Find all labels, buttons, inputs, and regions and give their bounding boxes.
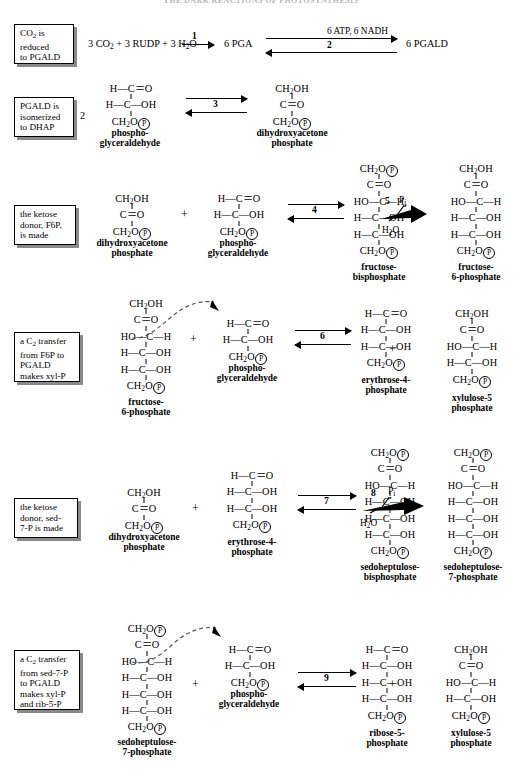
note-line: makes xyl-P [20, 689, 74, 700]
caption-xu5p-row4: xylulose-5 phosphate [426, 393, 518, 414]
phosphate-icon: P [153, 382, 165, 394]
arrow-step-1 [182, 44, 214, 45]
caption-line: bisphosphate [333, 272, 425, 282]
mol-row: C＝O [347, 463, 433, 474]
caption-pgald-row6: phospho- glyceraldehyde [201, 689, 297, 710]
caption-line: glyceraldehyde [82, 138, 178, 148]
note-line: from sed-7-P [20, 668, 74, 679]
note-line: donor, F6P, [20, 220, 70, 231]
mol-row: CH2OP [92, 226, 172, 237]
mol-row: CH2OP [104, 520, 184, 531]
mol-row: H—C—OH [104, 364, 188, 375]
arrow-number-9: 9 [324, 673, 329, 683]
mol-row: CH2OP [347, 545, 433, 556]
molecule-e4p-row5: H—C＝O H—C—OH H—C—OH CH2OP [208, 470, 296, 531]
molecule-dhap-row2: CH2OH C＝O CH2OP [252, 83, 332, 127]
arrow-number-3: 3 [213, 99, 218, 109]
mol-row: CH2OP [434, 245, 518, 256]
caption-line: phosphate [425, 738, 517, 748]
phosphate-icon: P [259, 521, 271, 533]
caption-line: sedoheptulose- [94, 737, 200, 747]
note-line: PGALD is [20, 101, 68, 112]
note-line: the ketose [20, 502, 72, 513]
molecule-f6p-row3: CH2OH C＝O HO—C—H H—C—OH H—C—OH CH2OP [434, 163, 518, 256]
arrow-step-3-reverse [186, 112, 247, 113]
step2-cofactors: 6 ATP, 6 NADH [327, 26, 388, 36]
row2-coefficient: 2 [80, 110, 85, 122]
note-line: a C2 transfer [20, 654, 74, 668]
caption-e4p-row5: erythrose-4- phosphate [204, 537, 300, 558]
caption-line: fructose- [102, 397, 190, 407]
mol-row: CH2OP [336, 163, 422, 174]
arrow-number-2: 2 [327, 40, 332, 50]
phosphate-icon: P [154, 723, 166, 735]
mol-row: HO—C—H [434, 196, 518, 207]
note-line: PGALD [20, 360, 74, 371]
note-line: makes xyl-P [20, 371, 74, 382]
mol-row: H—C＝O [342, 308, 430, 319]
mol-row: CH2OP [430, 545, 516, 556]
step5-output-water: H2O [382, 225, 399, 238]
note-line: isomerized [20, 112, 68, 123]
mol-row: H—C—OH [207, 660, 293, 671]
molecule-pgald-row3: H—C＝O H—C—OH CH2OP [196, 193, 282, 237]
caption-line: glyceraldehyde [199, 373, 295, 383]
mol-row: C＝O [429, 324, 515, 335]
caption-xu5p-row6: xylulose-5 phosphate [425, 728, 517, 749]
mol-row: C＝O [252, 99, 332, 110]
mol-row: H—C—OH [430, 513, 516, 524]
arrow-number-7: 7 [324, 496, 329, 506]
caption-s7p-row5: sedoheptulose- 7-phosphate [420, 562, 522, 583]
mol-row: H—C—OH [428, 693, 514, 704]
caption-line: phospho- [190, 238, 286, 248]
caption-dhap-row5: dihydroxyacetone phosphate [92, 532, 196, 553]
plus-sign-row6-left: + [192, 678, 199, 690]
caption-line: phosphate [240, 138, 344, 148]
plus-sign-row3: + [181, 208, 188, 220]
note-line: a C2 transfer [20, 336, 74, 350]
mol-row: H—C—OH [104, 347, 188, 358]
mol-row: CH2OP [342, 357, 430, 368]
note-line: donor, sed- [20, 513, 72, 524]
note-line: to PGALD [20, 678, 74, 689]
arrow-number-6: 6 [320, 331, 325, 341]
caption-fbp: fructose- bisphosphate [333, 262, 425, 283]
phosphate-icon: P [480, 547, 492, 559]
phosphate-icon: P [479, 376, 491, 388]
mol-row: CH2OH [429, 308, 515, 319]
mol-row: CH2OP [336, 245, 422, 256]
caption-line: 7-phosphate [420, 572, 522, 582]
mol-row: H—C—OH [343, 693, 431, 704]
molecule-e4p-row4: H—C＝O H—C—OH H—C—OH CH2OP [342, 308, 430, 369]
mol-row: CH2OP [207, 677, 293, 688]
note-line: is made [20, 230, 70, 241]
caption-line: phospho- [201, 689, 297, 699]
mol-row: CH2OP [428, 710, 514, 721]
caption-line: ribose-5- [340, 728, 434, 738]
caption-f6p-row4: fructose- 6-phosphate [102, 397, 190, 418]
page-title: THE DARK REACTIONS OF PHOTOSYNTHESIS [0, 0, 522, 4]
molecule-xu5p-row6: CH2OH C＝O HO—C—H H—C—OH CH2OP [428, 644, 514, 721]
mol-row: CH2OP [88, 116, 174, 127]
diagram-canvas: THE DARK REACTIONS OF PHOTOSYNTHESIS CO2… [0, 0, 522, 777]
note-box-2: PGALD is isomerized to DHAP [14, 97, 74, 137]
mol-row: H—C＝O [343, 644, 431, 655]
note-line: to PGALD [20, 52, 68, 63]
note-line: and rib-5-P [20, 699, 74, 710]
caption-line: phospho- [199, 363, 295, 373]
mol-row: H—C＝O [208, 470, 296, 481]
mol-row: CH2OP [430, 447, 516, 458]
caption-line: phosphate [80, 248, 184, 258]
caption-r5p: ribose-5- phosphate [340, 728, 434, 749]
caption-line: fructose- [432, 262, 520, 272]
plus-sign-row4-right: + [389, 343, 396, 355]
caption-pgald-row4: phospho- glyceraldehyde [199, 363, 295, 384]
mol-row: H—C—OH [208, 486, 296, 497]
mol-row: H—C—OH [430, 496, 516, 507]
note-line: reduced [20, 42, 68, 53]
molecule-xu5p-row4: CH2OH C＝O HO—C—H H—C—OH CH2OP [429, 308, 515, 385]
caption-line: 6-phosphate [432, 272, 520, 282]
mol-row: C＝O [104, 503, 184, 514]
molecule-pgald-row6: H—C＝O H—C—OH CH2OP [207, 644, 293, 688]
mol-row: C＝O [434, 179, 518, 190]
